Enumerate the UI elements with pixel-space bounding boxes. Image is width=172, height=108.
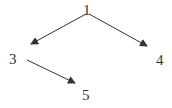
edge-1-3	[31, 14, 86, 44]
node-3: 3	[9, 52, 17, 67]
node-4: 4	[156, 53, 164, 68]
edge-3-5	[27, 60, 75, 83]
edge-1-4	[89, 14, 147, 46]
node-1: 1	[83, 3, 91, 18]
node-5: 5	[82, 88, 90, 103]
